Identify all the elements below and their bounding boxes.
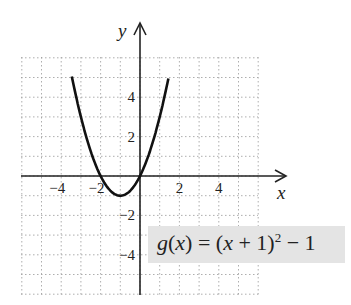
- svg-text:−4: −4: [119, 247, 135, 263]
- svg-text:x: x: [276, 182, 286, 203]
- svg-text:4: 4: [128, 89, 136, 105]
- svg-text:y: y: [116, 20, 127, 41]
- svg-text:4: 4: [215, 180, 223, 196]
- svg-text:−2: −2: [119, 207, 135, 223]
- equation-label: g(x) = (x + 1)2 − 1: [157, 230, 316, 256]
- svg-text:2: 2: [176, 180, 184, 196]
- svg-text:−2: −2: [89, 180, 105, 196]
- svg-text:−4: −4: [49, 180, 65, 196]
- svg-text:2: 2: [128, 129, 136, 145]
